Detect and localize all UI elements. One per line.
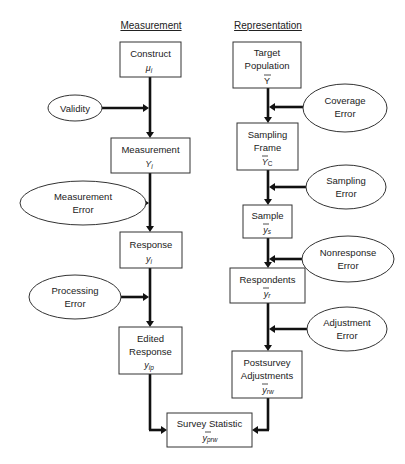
construct-box: Construct μi (120, 42, 181, 77)
svg-text:Survey Statistic: Survey Statistic (177, 418, 243, 429)
svg-text:Postsurvey: Postsurvey (244, 357, 291, 368)
svg-text:Error: Error (72, 204, 93, 215)
svg-text:Adjustment: Adjustment (323, 317, 371, 328)
edited-response-box: Edited Response yip (119, 327, 182, 374)
svg-text:Error: Error (334, 108, 355, 119)
sampling-frame-box: Sampling Frame YC (237, 123, 298, 170)
postsurvey-adjustments-box: Postsurvey Adjustments yrw (232, 351, 302, 398)
svg-text:Error: Error (335, 188, 356, 199)
adjustment-error-ellipse: Adjustment Error (307, 307, 387, 351)
validity-ellipse: Validity (48, 95, 102, 121)
sampling-error-ellipse: Sampling Error (306, 165, 386, 209)
svg-text:Error: Error (337, 260, 358, 271)
coverage-error-ellipse: Coverage Error (303, 84, 387, 132)
svg-text:Response: Response (130, 239, 173, 250)
response-box: Response yi (120, 232, 182, 268)
svg-text:Processing: Processing (52, 285, 99, 296)
respondents-box: Respondents yr (230, 268, 305, 303)
svg-text:Y: Y (264, 76, 270, 86)
svg-text:Sampling: Sampling (248, 129, 288, 140)
svg-text:Error: Error (64, 298, 85, 309)
svg-text:Sampling: Sampling (326, 175, 366, 186)
svg-text:Frame: Frame (254, 142, 281, 153)
svg-text:Measurement: Measurement (54, 191, 112, 202)
svg-text:Population: Population (245, 60, 290, 71)
svg-text:Construct: Construct (130, 48, 171, 59)
svg-text:Target: Target (254, 47, 281, 58)
measurement-header: Measurement (120, 20, 181, 31)
measurement-error-ellipse: Measurement Error (20, 181, 146, 225)
sample-box: Sample ys (243, 205, 292, 238)
svg-text:Nonresponse: Nonresponse (320, 247, 377, 258)
svg-text:Measurement: Measurement (121, 144, 179, 155)
svg-text:Sample: Sample (251, 210, 283, 221)
svg-text:Error: Error (336, 330, 357, 341)
svg-text:Edited: Edited (137, 333, 164, 344)
svg-text:Validity: Validity (60, 103, 90, 114)
representation-header: Representation (234, 20, 302, 31)
svg-text:Respondents: Respondents (240, 274, 296, 285)
survey-statistic-box: Survey Statistic yprw (167, 413, 252, 447)
measurement-box: Measurement Yi (111, 138, 190, 173)
processing-error-ellipse: Processing Error (29, 275, 121, 319)
svg-text:Adjustments: Adjustments (241, 370, 294, 381)
survey-lifecycle-diagram: Measurement Representation (0, 0, 405, 464)
target-population-box: Target Population Y (233, 42, 301, 88)
svg-text:Coverage: Coverage (324, 95, 365, 106)
nonresponse-error-ellipse: Nonresponse Error (302, 236, 394, 282)
svg-text:Response: Response (129, 346, 172, 357)
